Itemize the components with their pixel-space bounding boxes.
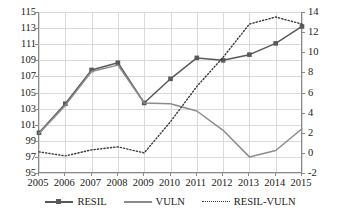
- data-point-marker: [116, 60, 121, 65]
- x-axis-tickmark: [64, 173, 65, 176]
- x-axis-tickmark: [117, 173, 118, 176]
- y-axis-left-tick: 111: [8, 39, 36, 50]
- legend-key-icon: [124, 197, 152, 206]
- y-axis-right-tickmark: [302, 133, 305, 134]
- y-axis-right-tick: 2: [308, 128, 334, 139]
- y-axis-left-tick: 103: [8, 104, 36, 115]
- x-axis-tickmark: [222, 173, 223, 176]
- solid-line-icon: [124, 201, 152, 203]
- legend-key-icon: [202, 197, 230, 206]
- y-axis-left-tick: 95: [8, 168, 36, 179]
- y-axis-left-tickmark: [35, 125, 38, 126]
- x-axis-tickmark: [248, 173, 249, 176]
- x-axis-tickmark: [170, 173, 171, 176]
- x-axis-tickmark: [143, 173, 144, 176]
- y-axis-left-tickmark: [35, 157, 38, 158]
- y-axis-right-tickmark: [302, 72, 305, 73]
- y-axis-left-tickmark: [35, 28, 38, 29]
- y-axis-left-tick: 109: [8, 55, 36, 66]
- y-axis-left-tick: 105: [8, 88, 36, 99]
- y-axis-left-tickmark: [35, 93, 38, 94]
- y-axis-right-tickmark: [302, 12, 305, 13]
- y-axis-right-tick: 10: [308, 47, 334, 58]
- y-axis-left-tick: 107: [8, 71, 36, 82]
- legend-key-icon: [45, 197, 73, 206]
- y-axis-left-tickmark: [35, 44, 38, 45]
- y-axis-right-tick: 14: [308, 7, 334, 18]
- y-axis-right-tickmark: [302, 32, 305, 33]
- y-axis-right-tickmark: [302, 52, 305, 53]
- legend-item-resil-vuln[interactable]: RESIL-VULN: [202, 196, 296, 207]
- legend-item-resil[interactable]: RESIL: [45, 196, 106, 207]
- y-axis-right-tick: 8: [308, 67, 334, 78]
- legend-label: RESIL: [77, 196, 106, 207]
- chart-container: 2005200620072008200920102011201220132014…: [0, 0, 341, 223]
- x-axis-tickmark: [38, 173, 39, 176]
- data-point-marker: [273, 41, 278, 46]
- x-axis-tickmark: [275, 173, 276, 176]
- data-point-marker: [300, 24, 305, 29]
- y-axis-left-tickmark: [35, 141, 38, 142]
- x-axis-tickmark: [196, 173, 197, 176]
- y-axis-right-tickmark: [302, 153, 305, 154]
- data-point-marker: [195, 56, 200, 61]
- y-axis-right-tick: 6: [308, 88, 334, 99]
- legend-item-vuln[interactable]: VULN: [124, 196, 185, 207]
- legend-label: VULN: [156, 196, 185, 207]
- y-axis-left-tick: 97: [8, 152, 36, 163]
- y-axis-left-tick: 101: [8, 120, 36, 131]
- y-axis-left-tick: 113: [8, 23, 36, 34]
- y-axis-left-tick: 115: [8, 7, 36, 18]
- y-axis-right-tickmark: [302, 113, 305, 114]
- y-axis-left-tickmark: [35, 12, 38, 13]
- y-axis-right-tick: 4: [308, 108, 334, 119]
- legend-label: RESIL-VULN: [234, 196, 296, 207]
- y-axis-right-tick: 12: [308, 27, 334, 38]
- plot-area: [38, 12, 302, 173]
- data-point-marker: [168, 77, 173, 82]
- y-axis-left-tickmark: [35, 173, 38, 174]
- y-axis-left-tickmark: [35, 76, 38, 77]
- y-axis-left-tickmark: [35, 109, 38, 110]
- y-axis-right-tick: 0: [308, 148, 334, 159]
- chart-legend: RESILVULNRESIL-VULN: [0, 196, 341, 207]
- y-axis-left-tickmark: [35, 60, 38, 61]
- y-axis-right-tick: -2: [308, 168, 334, 179]
- data-point-marker: [247, 52, 252, 57]
- y-axis-left-tick: 99: [8, 136, 36, 147]
- series-layer: [39, 12, 303, 173]
- y-axis-right-tickmark: [302, 173, 305, 174]
- x-axis-tickmark: [91, 173, 92, 176]
- y-axis-right-tickmark: [302, 93, 305, 94]
- dotted-line-icon: [202, 201, 230, 202]
- square-marker-icon: [56, 199, 61, 204]
- x-axis-tick: 2015: [286, 177, 316, 188]
